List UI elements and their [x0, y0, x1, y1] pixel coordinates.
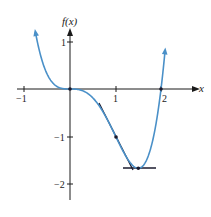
curve-arrow-left-icon: [33, 29, 38, 36]
function-curve: [35, 32, 165, 168]
point-origin: [68, 87, 72, 91]
function-graph: −1 1 2 1 −1 −2 x f(x): [0, 0, 211, 217]
axes: [17, 28, 200, 200]
tick-label-x-1: 1: [113, 93, 118, 104]
point-x-intercept: [159, 87, 163, 91]
point-inflection: [114, 135, 118, 139]
point-minimum: [137, 167, 141, 171]
tick-label-y-1: 1: [61, 37, 66, 48]
x-axis-label: x: [198, 82, 204, 94]
tick-label-y-neg2: −2: [54, 179, 65, 190]
y-axis-label: f(x): [62, 15, 78, 28]
tick-label-y-neg1: −1: [54, 132, 65, 143]
curve-arrow-right-icon: [162, 47, 168, 54]
y-axis-arrow-icon: [67, 28, 73, 36]
tick-label-x-2: 2: [162, 93, 167, 104]
tick-label-x-neg1: −1: [16, 93, 27, 104]
ticks: [24, 42, 161, 184]
